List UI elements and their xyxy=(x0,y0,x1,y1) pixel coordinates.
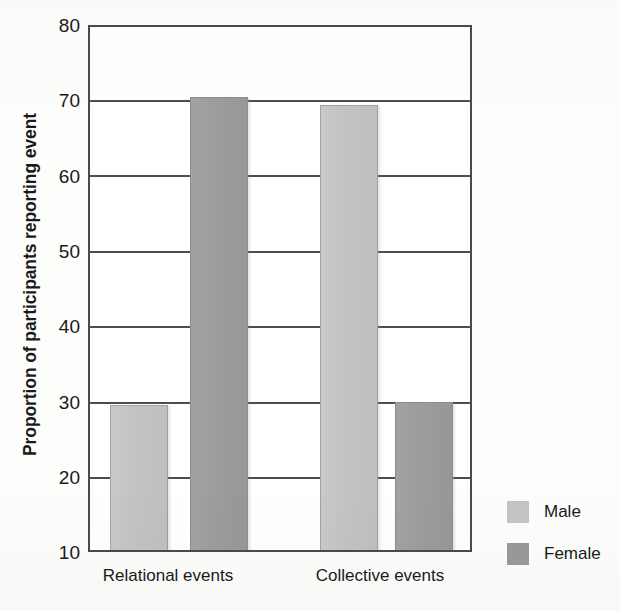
y-tick-10: 10 xyxy=(36,543,80,562)
y-tick-50: 50 xyxy=(36,242,80,261)
plot-area xyxy=(88,25,472,552)
bar-collective-female[interactable] xyxy=(395,402,453,550)
legend-label-male: Male xyxy=(544,502,581,522)
y-tick-70: 70 xyxy=(36,91,80,110)
legend-swatch-male-icon xyxy=(507,501,529,523)
x-tick-collective-events: Collective events xyxy=(300,566,460,586)
y-tick-40: 40 xyxy=(36,317,80,336)
legend: Male Female xyxy=(507,497,601,581)
bar-relational-female[interactable] xyxy=(190,97,248,550)
legend-item-female[interactable]: Female xyxy=(507,539,601,569)
x-tick-relational-events: Relational events xyxy=(88,566,248,586)
gridline-40 xyxy=(90,326,470,328)
y-tick-80: 80 xyxy=(36,16,80,35)
chart-page: Proportion of participants reporting eve… xyxy=(0,0,620,611)
bar-relational-male[interactable] xyxy=(110,405,168,550)
bar-collective-male[interactable] xyxy=(320,105,378,550)
gridline-50 xyxy=(90,251,470,253)
gridline-70 xyxy=(90,100,470,102)
gridline-60 xyxy=(90,175,470,177)
y-tick-60: 60 xyxy=(36,167,80,186)
legend-label-female: Female xyxy=(544,544,601,564)
y-axis-tick-labels: 80 70 60 50 40 30 20 10 xyxy=(24,0,80,611)
y-tick-30: 30 xyxy=(36,393,80,412)
legend-swatch-female-icon xyxy=(507,543,529,565)
legend-item-male[interactable]: Male xyxy=(507,497,601,527)
y-tick-20: 20 xyxy=(36,468,80,487)
